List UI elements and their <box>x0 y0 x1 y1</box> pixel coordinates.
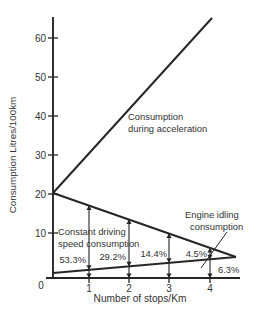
annotation-text-line: Constant driving <box>58 226 139 238</box>
percent-label-3-stops: 14.4% <box>140 248 167 259</box>
y-tick-label: 20 <box>35 189 47 200</box>
x-tick-label: 1 <box>86 283 92 294</box>
annotation-text-line: Engine idling <box>185 209 243 221</box>
annotation-consumption-during-acceleration: Consumption during acceleration <box>128 111 207 135</box>
percent-label-4-stops: 4.5% <box>186 248 207 259</box>
y-tick-label: 30 <box>35 150 47 161</box>
x-tick-label: 4 <box>207 283 213 294</box>
fuel-consumption-figure: 10203040506012340 Consumption Litres/100… <box>0 0 263 322</box>
percent-label-1-stop: 53.3% <box>59 254 86 265</box>
x-tick-label: 2 <box>126 283 132 294</box>
origin-label: 0 <box>38 280 44 291</box>
annotation-constant-driving-speed-consumption: Constant driving speed consumption <box>58 226 139 250</box>
annotation-text-line: during acceleration <box>128 123 207 135</box>
y-axis-title: Consumption Litres/100km <box>7 65 21 245</box>
percent-label-idling: 6.3% <box>218 264 239 275</box>
percent-label-2-stops: 29.2% <box>99 251 126 262</box>
y-tick-label: 10 <box>35 228 47 239</box>
annotation-text-line: Consumption <box>128 111 207 123</box>
annotation-text-line: speed consumption <box>58 238 139 250</box>
annotation-engine-idling-consumption: Engine idling consumption <box>185 209 243 233</box>
y-tick-label: 40 <box>35 111 47 122</box>
y-tick-label: 50 <box>35 72 47 83</box>
x-axis-title: Number of stops/Km <box>50 293 230 304</box>
x-tick-label: 3 <box>166 283 172 294</box>
series-line-acceleration <box>53 18 212 193</box>
y-tick-label: 60 <box>35 33 47 44</box>
annotation-text-line: consumption <box>185 221 243 233</box>
